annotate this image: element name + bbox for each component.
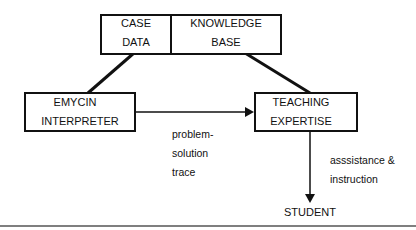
knowledge-base-label: KNOWLEDGE BASE — [170, 14, 282, 52]
trace-line3: trace — [172, 163, 213, 182]
trace-line2: solution — [172, 144, 213, 163]
teaching-label: TEACHING EXPERTISE — [258, 93, 344, 131]
edge-casedata-emycin — [88, 53, 134, 93]
edge-label-assistance-instruction: asssistance & instruction — [330, 151, 395, 189]
case-data-label: CASE DATA — [100, 14, 172, 52]
assistance-line2: instruction — [330, 170, 395, 189]
knowledge-base-line1: KNOWLEDGE — [170, 14, 282, 33]
teaching-line1: TEACHING — [258, 93, 344, 112]
case-data-line2: DATA — [100, 33, 172, 52]
node-student: STUDENT — [280, 203, 340, 222]
edge-knowledge-teaching — [245, 53, 310, 93]
emycin-line2: INTERPRETER — [30, 112, 130, 131]
edge-label-problem-solution-trace: problem- solution trace — [172, 125, 213, 182]
arrowhead-down-icon — [305, 194, 315, 203]
teaching-line2: EXPERTISE — [258, 112, 344, 131]
knowledge-base-line2: BASE — [170, 33, 282, 52]
arrowhead-right-icon — [245, 107, 254, 117]
emycin-line1: EMYCIN — [20, 93, 130, 112]
assistance-line1: asssistance & — [330, 151, 395, 170]
trace-line1: problem- — [172, 125, 213, 144]
case-data-line1: CASE — [100, 14, 172, 33]
emycin-label: EMYCIN INTERPRETER — [30, 93, 130, 131]
